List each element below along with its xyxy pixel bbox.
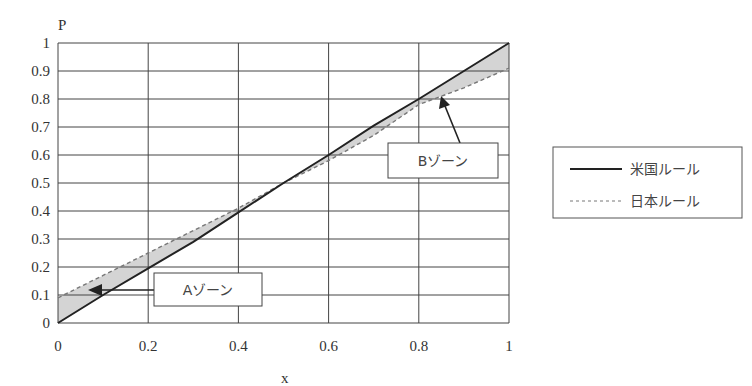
y-tick-label: 1 <box>43 35 51 51</box>
legend-item-japan: 日本ルール <box>630 193 700 209</box>
y-tick-label: 0.9 <box>31 63 50 79</box>
legend-item-usa: 米国ルール <box>630 161 700 177</box>
x-tick-label: 1 <box>505 338 513 354</box>
y-tick-label: 0.4 <box>31 203 50 219</box>
chart: 00.10.20.30.40.50.60.70.80.91 00.20.40.6… <box>0 0 752 386</box>
annotation-a-label: Aゾーン <box>183 282 234 298</box>
arrow-head-icon <box>439 96 450 109</box>
y-tick-label: 0.3 <box>31 231 50 247</box>
legend: 米国ルール 日本ルール <box>553 147 742 218</box>
x-tick-label: 0.4 <box>229 338 248 354</box>
y-tick-label: 0.2 <box>31 259 50 275</box>
x-axis-ticks: 00.20.40.60.81 <box>54 338 513 354</box>
y-tick-label: 0.1 <box>31 287 50 303</box>
x-tick-label: 0.2 <box>139 338 158 354</box>
y-tick-label: 0 <box>43 315 51 331</box>
x-tick-label: 0 <box>54 338 62 354</box>
annotation-b-label: Bゾーン <box>418 153 469 169</box>
y-tick-label: 0.5 <box>31 175 50 191</box>
y-axis-label: P <box>58 17 66 33</box>
x-axis-label: x <box>281 370 289 386</box>
y-axis-ticks: 00.10.20.30.40.50.60.70.80.91 <box>31 35 50 331</box>
y-tick-label: 0.6 <box>31 147 50 163</box>
x-tick-label: 0.6 <box>319 338 338 354</box>
y-tick-label: 0.7 <box>31 119 50 135</box>
arrow-line <box>445 106 460 143</box>
x-tick-label: 0.8 <box>409 338 428 354</box>
y-tick-label: 0.8 <box>31 91 50 107</box>
